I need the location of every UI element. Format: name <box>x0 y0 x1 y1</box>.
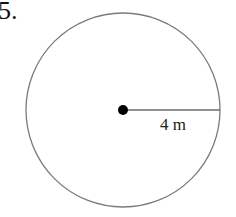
radius-label: 4 m <box>160 116 186 133</box>
circle-diagram <box>0 0 236 217</box>
center-point <box>118 105 128 115</box>
